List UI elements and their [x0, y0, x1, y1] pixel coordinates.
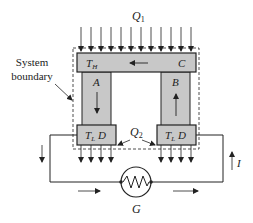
hot-material-label: C [178, 57, 186, 69]
right-leg-label: B [172, 76, 179, 88]
generator-load [119, 167, 153, 197]
boundary-label-line2: boundary [11, 70, 53, 82]
heat-out-arrows [81, 145, 191, 162]
boundary-pointer-arrow [55, 84, 72, 100]
thermoelectric-diagram: Q1 System boundary TH C A B TLD TLD Q2 [0, 0, 253, 223]
boundary-label-line1: System [16, 56, 49, 68]
heat-out-label: Q2 [130, 125, 143, 140]
current-label: I [236, 157, 242, 169]
q2-right-arrow [142, 140, 155, 145]
cold-junction-left [77, 125, 116, 145]
left-leg-label: A [92, 76, 100, 88]
cold-junction-right [157, 125, 196, 145]
generator-label: G [132, 202, 141, 216]
q2-left-arrow [118, 140, 130, 145]
heat-in-label: Q1 [132, 9, 145, 24]
heat-in-arrows [81, 27, 191, 51]
